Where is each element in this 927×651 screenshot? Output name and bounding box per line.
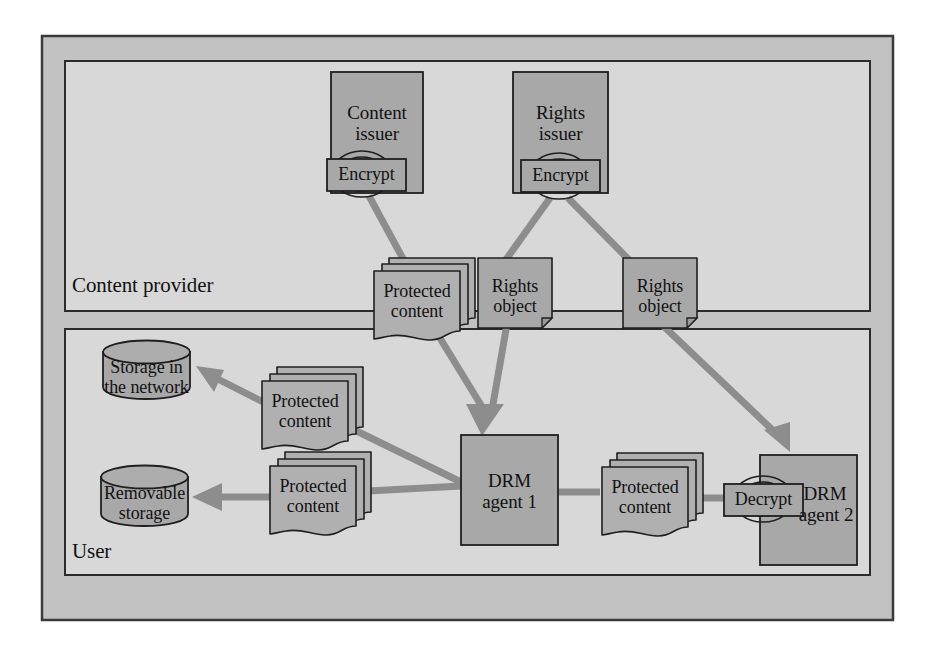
node-protected-content-provider[interactable] xyxy=(374,258,475,340)
node-encrypt-rights[interactable] xyxy=(521,160,600,192)
node-decrypt[interactable] xyxy=(724,484,803,516)
node-protected-content-agent[interactable] xyxy=(602,453,703,536)
node-storage-network[interactable] xyxy=(103,341,190,400)
node-protected-content-network[interactable] xyxy=(262,367,363,450)
diagram-canvas: Content provider User Content issuer Rig… xyxy=(0,0,927,651)
node-drm-agent-1[interactable] xyxy=(461,435,558,545)
diagram-svg xyxy=(0,0,927,651)
node-rights-object-1[interactable] xyxy=(478,258,552,328)
node-protected-content-removable[interactable] xyxy=(270,452,371,535)
node-rights-object-2[interactable] xyxy=(623,258,697,328)
node-removable-storage[interactable] xyxy=(101,466,188,527)
node-encrypt-content[interactable] xyxy=(327,159,406,191)
